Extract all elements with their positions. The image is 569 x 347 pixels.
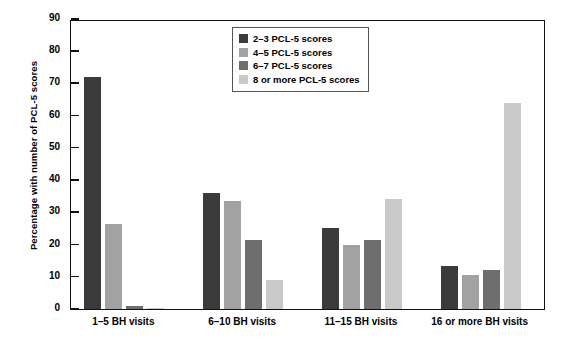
y-tick-label: 80: [49, 44, 60, 55]
bar: [504, 103, 521, 309]
y-tick-mark: [71, 147, 79, 149]
y-tick-mark: [71, 82, 79, 84]
y-tick-mark: [71, 18, 79, 20]
legend-item: 8 or more PCL-5 scores: [239, 73, 360, 87]
bar: [462, 275, 479, 309]
bar-group: [441, 21, 521, 309]
bar: [147, 308, 164, 309]
chart-legend: 2–3 PCL-5 scores4–5 PCL-5 scores6–7 PCL-…: [232, 27, 369, 92]
x-tick-label: 1–5 BH visits: [92, 316, 154, 327]
bar: [364, 240, 381, 309]
y-tick-mark: [71, 308, 79, 310]
y-tick-mark: [71, 179, 79, 181]
bar: [203, 193, 220, 309]
y-tick-mark: [71, 115, 79, 117]
bar: [441, 266, 458, 310]
legend-label: 4–5 PCL-5 scores: [253, 48, 332, 58]
bar: [126, 306, 143, 309]
x-tick-label: 6–10 BH visits: [208, 316, 276, 327]
y-tick-label: 50: [49, 141, 60, 152]
legend-label: 6–7 PCL-5 scores: [253, 61, 332, 71]
bar: [245, 240, 262, 309]
y-tick-label: 70: [49, 76, 60, 87]
y-tick-label: 60: [49, 109, 60, 120]
y-tick-label: 90: [49, 12, 60, 23]
bar: [266, 280, 283, 309]
y-tick-label: 20: [49, 238, 60, 249]
y-tick-mark: [71, 211, 79, 213]
bar-chart-figure: Percentage with number of PCL-5 scores 0…: [0, 0, 569, 347]
bar: [385, 199, 402, 309]
legend-label: 2–3 PCL-5 scores: [253, 34, 332, 44]
legend-item: 2–3 PCL-5 scores: [239, 32, 360, 46]
x-tick-label: 11–15 BH visits: [324, 316, 397, 327]
legend-swatch-icon: [239, 34, 248, 43]
y-tick-mark: [71, 244, 79, 246]
y-tick-label: 30: [49, 205, 60, 216]
bar: [224, 201, 241, 309]
legend-item: 4–5 PCL-5 scores: [239, 46, 360, 60]
legend-label: 8 or more PCL-5 scores: [253, 75, 360, 85]
bar-group: [84, 21, 164, 309]
y-tick-mark: [71, 276, 79, 278]
y-tick-label: 0: [54, 302, 60, 313]
bar: [483, 270, 500, 309]
legend-swatch-icon: [239, 75, 248, 84]
bar: [84, 77, 101, 309]
y-tick-label: 10: [49, 270, 60, 281]
legend-item: 6–7 PCL-5 scores: [239, 59, 360, 73]
bar: [105, 224, 122, 309]
y-tick-mark: [71, 50, 79, 52]
y-axis-title: Percentage with number of PCL-5 scores: [28, 31, 39, 281]
y-tick-label: 40: [49, 173, 60, 184]
legend-swatch-icon: [239, 61, 248, 70]
legend-swatch-icon: [239, 48, 248, 57]
bar: [322, 228, 339, 309]
bar: [343, 245, 360, 309]
x-tick-label: 16 or more BH visits: [431, 316, 528, 327]
